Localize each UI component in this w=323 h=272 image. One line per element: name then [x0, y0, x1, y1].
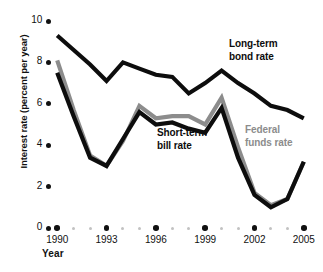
annotation-line-2: funds rate — [245, 137, 292, 150]
x-axis-tick-dot-major — [54, 225, 60, 231]
x-axis-tick-dot-minor — [220, 227, 223, 230]
x-axis-tick-label: 2002 — [237, 234, 271, 245]
x-axis-tick-dot-major — [153, 225, 159, 231]
x-axis-tick-dot-major — [202, 225, 208, 231]
annotation-line-1: Federal — [245, 124, 292, 137]
annotation-line-2: bill rate — [157, 140, 207, 153]
x-axis-tick-label: 1999 — [188, 234, 222, 245]
x-axis-tick-dot-minor — [72, 227, 75, 230]
x-axis-tick-label: 2005 — [287, 234, 321, 245]
x-axis-tick-dot-minor — [237, 227, 240, 230]
x-axis-tick-label: 1996 — [139, 234, 173, 245]
x-axis-title: Year — [42, 248, 64, 259]
x-axis-tick-dot-major — [252, 225, 258, 231]
x-axis-tick-label: 1990 — [40, 234, 74, 245]
x-axis-tick-dot-minor — [187, 227, 190, 230]
annotation-federal-funds-rate: Federal funds rate — [245, 124, 292, 149]
x-axis-tick-dot-minor — [286, 227, 289, 230]
annotation-long-term-bond-rate: Long-term bond rate — [229, 38, 278, 63]
interest-rate-line-chart: Interest rate (percent per year) 1086420… — [0, 0, 323, 272]
annotation-line-1: Short-term — [157, 127, 207, 140]
annotation-line-2: bond rate — [229, 51, 278, 64]
x-axis-tick-dot-major — [104, 225, 110, 231]
x-axis-tick-dot-minor — [89, 227, 92, 230]
x-axis-tick-dot-minor — [171, 227, 174, 230]
x-axis-tick-dot-major — [301, 225, 307, 231]
annotation-line-1: Long-term — [229, 38, 278, 51]
x-axis-tick-label: 1993 — [90, 234, 124, 245]
annotation-short-term-bill-rate: Short-term bill rate — [157, 127, 207, 152]
x-axis-tick-dot-minor — [138, 227, 141, 230]
